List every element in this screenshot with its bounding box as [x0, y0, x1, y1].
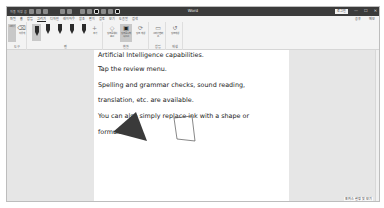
- tab-home[interactable]: 홈: [20, 17, 23, 21]
- tab-help[interactable]: 도움말: [119, 17, 128, 21]
- tab-file[interactable]: 파일: [10, 17, 16, 21]
- draw-tool-button[interactable]: 그리기: [8, 24, 16, 42]
- window-controls: 로그인 — ☐ ✕: [335, 8, 377, 14]
- eraser-icon[interactable]: [67, 9, 72, 14]
- title-bar: 자동 저장 끔 Word 로그인 — ☐ ✕: [7, 7, 379, 16]
- sign-in-button[interactable]: 로그인: [335, 9, 348, 14]
- eraser-icon: ⌫: [17, 24, 25, 31]
- pen-icon: [35, 26, 39, 36]
- tab-layout[interactable]: 레이아웃: [63, 17, 75, 21]
- undo-icon[interactable]: [36, 9, 41, 14]
- draw-ribbon: 그리기 ⌫ 지우개 도구 + 추가 펜 ◇ 잉크를 셰이프로: [7, 22, 379, 50]
- plus-icon: +: [92, 24, 97, 31]
- pens-group: + 추가 펜: [28, 22, 103, 50]
- lasso-icon[interactable]: [101, 9, 106, 14]
- pen-2-button[interactable]: [46, 24, 50, 34]
- convert-group: ◇ 잉크를 셰이프로 ▣ 잉크를 수학 식으로 ⟳ 잉크 재생 변환: [104, 22, 149, 50]
- tab-mailings[interactable]: 편지: [89, 17, 95, 21]
- pen-3-button[interactable]: [58, 24, 62, 34]
- tab-design[interactable]: 디자인: [50, 17, 59, 21]
- close-button[interactable]: ✕: [374, 8, 377, 14]
- document-page[interactable]: Artificial Intelligence capabilities. Ta…: [94, 50, 289, 202]
- highlighter-icon: [70, 24, 74, 34]
- pen-icon: [46, 24, 50, 34]
- highlighter-button[interactable]: [70, 24, 74, 34]
- replay-icon: ↺: [172, 24, 177, 31]
- add-pen-button[interactable]: + 추가: [92, 24, 97, 35]
- drawing-canvas-button[interactable]: ▭ 그리기 캔버스: [152, 24, 164, 38]
- ink-shapes: [94, 50, 289, 202]
- shape-icon[interactable]: [80, 9, 85, 14]
- draw-tool-icon[interactable]: [60, 9, 65, 14]
- tab-search[interactable]: 검색: [132, 17, 138, 21]
- pen-icon[interactable]: [115, 9, 120, 14]
- replay-icon: ⟳: [138, 24, 143, 31]
- hand-drawn-rectangle[interactable]: [174, 116, 195, 141]
- autosave-toggle[interactable]: 자동 저장 끔: [10, 10, 27, 14]
- math-icon: ▣: [123, 24, 129, 31]
- minimize-button[interactable]: —: [354, 8, 358, 14]
- pen-selected-icon[interactable]: [94, 9, 99, 14]
- insert-group: ▭ 그리기 캔버스 삽입: [150, 22, 166, 50]
- tab-draw[interactable]: 그리기: [37, 17, 46, 21]
- tab-insert[interactable]: 삽입: [27, 17, 33, 21]
- table-icon[interactable]: [87, 9, 92, 14]
- ruler-icon[interactable]: [108, 9, 113, 14]
- ink-replay-button[interactable]: ⟳ 잉크 재생: [134, 24, 147, 35]
- ink-to-math-button[interactable]: ▣ 잉크를 수학 식으로: [120, 24, 132, 42]
- pencil-button[interactable]: [82, 24, 86, 34]
- status-text: 포커스 설정 및 보기: [344, 197, 373, 201]
- comments-button[interactable]: 메모: [369, 17, 375, 21]
- maximize-button[interactable]: ☐: [364, 8, 368, 14]
- canvas-icon: ▭: [155, 24, 161, 31]
- pencil-icon: [82, 24, 86, 34]
- quick-access-toolbar: 자동 저장 끔: [7, 7, 120, 16]
- document-area: Artificial Intelligence capabilities. Ta…: [7, 50, 379, 202]
- shape-convert-icon: ◇: [110, 24, 115, 31]
- eraser-tool-button[interactable]: ⌫ 지우개: [17, 24, 26, 35]
- tab-references[interactable]: 참조: [79, 17, 85, 21]
- save-icon[interactable]: [29, 9, 34, 14]
- tab-review[interactable]: 검토: [99, 17, 105, 21]
- pen-icon: [58, 24, 62, 34]
- tab-view[interactable]: 보기: [109, 17, 115, 21]
- ink-replay-2-button[interactable]: ↺ 잉크 재생: [169, 24, 181, 35]
- triangle-shape[interactable]: [113, 112, 147, 141]
- vertical-scrollbar[interactable]: [375, 50, 379, 202]
- replay-group: ↺ 잉크 재생 재생: [167, 22, 183, 50]
- redo-icon[interactable]: [43, 9, 48, 14]
- word-window: 자동 저장 끔 Word 로그인 — ☐ ✕ 파일 홈 삽입 그리기 디자인 레…: [6, 6, 380, 202]
- ink-to-shape-button[interactable]: ◇ 잉크를 셰이프로: [106, 24, 118, 38]
- tools-group: 그리기 ⌫ 지우개 도구: [7, 22, 27, 50]
- share-button[interactable]: 공유: [355, 17, 361, 21]
- window-title: Word: [188, 8, 198, 13]
- pen-1-button[interactable]: [32, 24, 41, 41]
